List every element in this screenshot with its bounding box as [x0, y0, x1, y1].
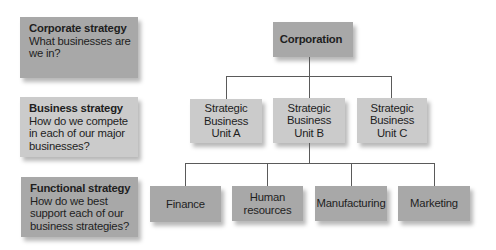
level-description: How do we best support each of our busin… — [30, 195, 132, 233]
node-label: Manufacturing — [317, 197, 386, 210]
connector-human-resources — [267, 163, 268, 186]
node-human-resources: Human resources — [232, 186, 303, 221]
level-business-strategy: Business strategy How do we compete in e… — [20, 97, 138, 157]
connector-sbu-b-down — [309, 143, 310, 164]
node-manufacturing: Manufacturing — [315, 186, 387, 221]
node-label: Finance — [166, 198, 205, 211]
level-description: How do we compete in each of our major b… — [29, 115, 132, 153]
node-label: Corporation — [280, 33, 342, 46]
connector-sbu-c — [391, 76, 392, 98]
node-sbu-c: Strategic Business Unit C — [357, 98, 427, 143]
level-title: Corporate strategy — [29, 22, 132, 35]
level-description: What businesses are we in? — [29, 35, 132, 60]
connector-manufacturing — [351, 163, 352, 186]
connector-sbu-b — [309, 76, 310, 98]
node-marketing: Marketing — [398, 186, 470, 221]
level-corporate-strategy: Corporate strategy What businesses are w… — [20, 17, 138, 78]
node-label: Strategic Business Unit B — [281, 102, 337, 140]
connector-sbu-a — [226, 76, 227, 99]
connector-root-down — [309, 57, 310, 77]
connector-function-horizontal — [185, 163, 435, 164]
connector-marketing — [434, 163, 435, 186]
node-corporation: Corporation — [273, 22, 353, 57]
connector-finance — [185, 163, 186, 186]
node-sbu-b: Strategic Business Unit B — [273, 98, 345, 143]
node-label: Strategic Business Unit A — [198, 102, 254, 140]
node-finance: Finance — [150, 186, 221, 222]
level-title: Functional strategy — [30, 182, 132, 195]
node-label: Marketing — [410, 197, 458, 210]
node-label: Human resources — [238, 191, 298, 216]
level-title: Business strategy — [29, 102, 132, 115]
level-functional-strategy: Functional strategy How do we best suppo… — [21, 177, 138, 237]
node-sbu-a: Strategic Business Unit A — [190, 99, 262, 143]
node-label: Strategic Business Unit C — [364, 102, 420, 140]
